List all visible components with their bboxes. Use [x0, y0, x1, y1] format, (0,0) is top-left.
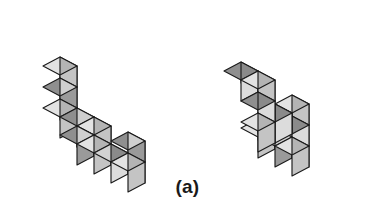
right-object-group: [224, 62, 309, 176]
figure-container: (a): [0, 0, 375, 212]
figure-caption: (a): [0, 176, 375, 198]
left-object-group: [43, 57, 145, 192]
